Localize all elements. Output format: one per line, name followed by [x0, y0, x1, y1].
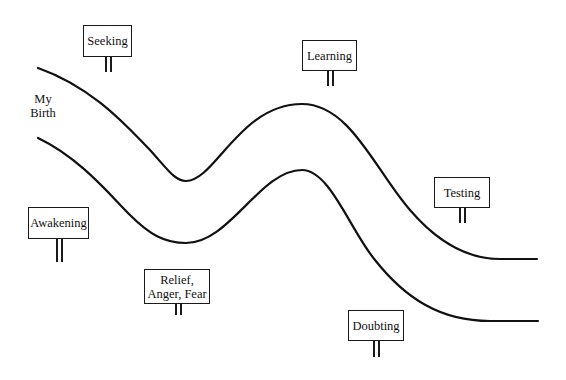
sign-post-left [373, 341, 375, 357]
sign-board: Relief, Anger, Fear [144, 269, 210, 304]
sign-board: Doubting [348, 310, 404, 341]
sign-post-left [105, 57, 107, 72]
sign-post-left [56, 239, 58, 262]
river-lower-bank [38, 138, 538, 321]
sign-board: Learning [302, 40, 357, 71]
sign-post-right [332, 71, 334, 86]
sign-post-right [110, 57, 112, 72]
start-label-my-birth: My Birth [24, 92, 62, 120]
sign-post-right [378, 341, 380, 357]
sign-post-left [175, 304, 177, 315]
sign-post-right [180, 304, 182, 315]
sign-post-right [464, 208, 466, 223]
sign-board: Awakening [28, 207, 89, 239]
river-upper-bank [38, 68, 537, 259]
sign-post-left [327, 71, 329, 86]
sign-board: Testing [434, 177, 490, 208]
sign-board: Seeking [83, 25, 132, 57]
sign-post-right [61, 239, 63, 262]
sign-post-left [459, 208, 461, 223]
